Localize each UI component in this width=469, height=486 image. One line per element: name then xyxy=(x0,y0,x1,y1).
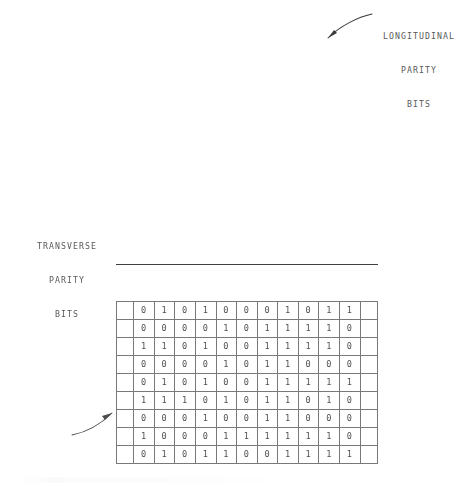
matrix-cell: 0 xyxy=(237,445,258,463)
matrix-cell: 0 xyxy=(154,319,175,337)
matrix-cell: 1 xyxy=(257,373,278,391)
matrix-cell: 1 xyxy=(319,391,340,409)
matrix-cell: 0 xyxy=(175,427,196,445)
matrix-cell: 0 xyxy=(175,409,196,427)
matrix-cell: 1 xyxy=(278,373,299,391)
matrix-cell: 1 xyxy=(257,355,278,373)
matrix-cell: 0 xyxy=(216,301,237,319)
matrix-cell: 1 xyxy=(196,337,217,355)
matrix-cell: 0 xyxy=(175,301,196,319)
matrix-cell: 0 xyxy=(216,409,237,427)
matrix-cell: 0 xyxy=(216,337,237,355)
matrix-cell: 0 xyxy=(175,445,196,463)
matrix-row: 01010011111 xyxy=(117,373,378,391)
matrix-cell: 1 xyxy=(216,355,237,373)
longitudinal-parity-cell: 0 xyxy=(340,409,361,427)
matrix-cell: 1 xyxy=(278,355,299,373)
matrix-cell: 1 xyxy=(196,409,217,427)
row-gutter-left xyxy=(117,409,134,427)
longitudinal-parity-arrow-icon xyxy=(318,10,376,46)
matrix-row: 00001011000 xyxy=(117,355,378,373)
matrix-cell: 1 xyxy=(278,301,299,319)
row-gutter-left xyxy=(117,445,134,463)
longitudinal-parity-cell: 0 xyxy=(340,427,361,445)
grid-top-rule xyxy=(116,264,378,265)
transverse-parity-arrow-icon xyxy=(70,405,122,439)
matrix-cell: 1 xyxy=(216,319,237,337)
row-gutter-right xyxy=(360,427,377,445)
matrix-cell: 1 xyxy=(298,445,319,463)
matrix-cell: 0 xyxy=(175,319,196,337)
matrix-row: 11010011110 xyxy=(117,337,378,355)
matrix-cell: 0 xyxy=(237,373,258,391)
row-gutter-left xyxy=(117,301,134,319)
matrix-cell: 1 xyxy=(278,319,299,337)
matrix-cell: 0 xyxy=(237,337,258,355)
matrix-cell: 1 xyxy=(154,445,175,463)
longitudinal-parity-cell: 1 xyxy=(340,301,361,319)
matrix-cell: 1 xyxy=(319,373,340,391)
matrix-cell: 0 xyxy=(134,301,155,319)
matrix-cell: 1 xyxy=(154,373,175,391)
transverse-label-line-3: BITS xyxy=(12,309,122,320)
matrix-cell: 0 xyxy=(298,409,319,427)
matrix-cell: 0 xyxy=(319,355,340,373)
matrix-cell: 1 xyxy=(237,427,258,445)
matrix-cell: 0 xyxy=(298,391,319,409)
row-gutter-left xyxy=(117,373,134,391)
longitudinal-label-line-1: LONGITUDINAL xyxy=(372,31,466,42)
matrix-row: 01011001111 xyxy=(117,445,378,463)
matrix-cell: 1 xyxy=(134,337,155,355)
row-gutter-right xyxy=(360,301,377,319)
matrix-cell: 1 xyxy=(319,337,340,355)
transverse-label-line-2: PARITY xyxy=(12,275,122,286)
row-gutter-left xyxy=(117,427,134,445)
matrix-cell: 1 xyxy=(298,337,319,355)
scan-residue xyxy=(12,477,469,483)
matrix-cell: 1 xyxy=(298,427,319,445)
matrix-cell: 1 xyxy=(319,445,340,463)
matrix-cell: 1 xyxy=(278,391,299,409)
matrix-cell: 1 xyxy=(319,301,340,319)
transverse-parity-label: TRANSVERSE PARITY BITS 01010001011000010… xyxy=(12,219,122,421)
matrix-row: 00010011000 xyxy=(117,409,378,427)
matrix-cell: 1 xyxy=(298,319,319,337)
matrix-cell: 1 xyxy=(278,337,299,355)
longitudinal-parity-cell: 0 xyxy=(340,319,361,337)
matrix-row: 10001111110 xyxy=(117,427,378,445)
matrix-cell: 0 xyxy=(237,301,258,319)
matrix-cell: 1 xyxy=(257,409,278,427)
longitudinal-parity-label: LONGITUDINAL PARITY BITS xyxy=(372,9,466,132)
row-gutter-right xyxy=(360,337,377,355)
matrix-cell: 0 xyxy=(196,319,217,337)
matrix-cell: 0 xyxy=(134,319,155,337)
matrix-cell: 1 xyxy=(216,445,237,463)
matrix-cell: 1 xyxy=(278,445,299,463)
matrix-row: 11101011010 xyxy=(117,391,378,409)
matrix-cell: 0 xyxy=(319,409,340,427)
matrix-cell: 1 xyxy=(216,427,237,445)
matrix-cell: 1 xyxy=(154,337,175,355)
longitudinal-parity-cell: 1 xyxy=(340,445,361,463)
matrix-cell: 0 xyxy=(237,355,258,373)
parity-matrix-table: 0101000101100001011110110100111100000101… xyxy=(116,301,378,464)
matrix-cell: 1 xyxy=(196,373,217,391)
row-gutter-left xyxy=(117,337,134,355)
matrix-cell: 1 xyxy=(175,391,196,409)
row-gutter-right xyxy=(360,445,377,463)
matrix-row: 00001011110 xyxy=(117,319,378,337)
row-gutter-left xyxy=(117,391,134,409)
matrix-cell: 0 xyxy=(237,409,258,427)
matrix-cell: 1 xyxy=(134,427,155,445)
matrix-cell: 0 xyxy=(196,427,217,445)
matrix-cell: 0 xyxy=(154,355,175,373)
matrix-cell: 0 xyxy=(134,355,155,373)
matrix-cell: 0 xyxy=(154,427,175,445)
matrix-cell: 1 xyxy=(278,427,299,445)
matrix-cell: 1 xyxy=(257,427,278,445)
matrix-cell: 0 xyxy=(216,373,237,391)
row-gutter-right xyxy=(360,391,377,409)
matrix-cell: 0 xyxy=(257,301,278,319)
matrix-cell: 1 xyxy=(298,373,319,391)
